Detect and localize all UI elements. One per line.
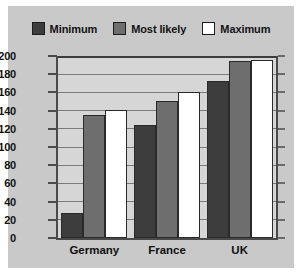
bar-france-minimum (134, 125, 156, 238)
y-axis-tick-label-200: 200 (0, 50, 16, 62)
x-axis-label-uk: UK (231, 244, 248, 256)
bar-france-most-likely (156, 101, 178, 238)
bar-germany-minimum (61, 213, 83, 238)
y-axis-tick-label-80: 80 (0, 159, 16, 171)
y-axis-tick-mark-160 (48, 91, 57, 93)
plot-area (56, 56, 278, 240)
bar-group-france (131, 56, 204, 238)
y-axis-tick-label-100: 100 (0, 141, 16, 153)
right-axis-tick-40 (278, 201, 285, 203)
legend-label-most-likely: Most likely (131, 23, 186, 35)
y-axis-tick-label-60: 60 (0, 177, 16, 189)
legend-label-maximum: Maximum (220, 23, 270, 35)
x-axis-label-france: France (148, 244, 186, 256)
bar-germany-most-likely (83, 115, 105, 238)
y-axis-tick-label-180: 180 (0, 68, 16, 80)
y-axis-tick-mark-40 (48, 201, 57, 203)
right-axis-tick-160 (278, 91, 285, 93)
y-axis-tick-label-120: 120 (0, 123, 16, 135)
right-axis-tick-0 (278, 237, 285, 239)
legend-item-minimum: Minimum (32, 22, 98, 35)
legend-label-minimum: Minimum (50, 23, 98, 35)
bar-germany-maximum (105, 110, 127, 238)
legend-swatch-minimum (32, 22, 45, 35)
plot-wrapper: 020406080100120140160180200 GermanyFranc… (18, 50, 284, 260)
y-axis-tick-label-40: 40 (0, 196, 16, 208)
right-axis-tick-120 (278, 128, 285, 130)
y-axis-tick-label-0: 0 (0, 232, 16, 244)
bar-france-maximum (178, 92, 200, 239)
y-axis-tick-mark-20 (48, 219, 57, 221)
right-axis-tick-60 (278, 182, 285, 184)
right-axis-tick-180 (278, 73, 285, 75)
bar-uk-most-likely (229, 61, 251, 238)
chart-legend: Minimum Most likely Maximum (8, 22, 294, 35)
y-axis-tick-mark-100 (48, 146, 57, 148)
right-axis-tick-100 (278, 146, 285, 148)
bar-uk-maximum (251, 60, 273, 238)
legend-item-maximum: Maximum (202, 22, 270, 35)
chart-figure: Minimum Most likely Maximum 020406080100… (8, 6, 294, 268)
x-axis-category-labels: GermanyFranceUK (58, 244, 276, 262)
x-axis-label-germany: Germany (69, 244, 119, 256)
y-axis-tick-mark-0 (48, 237, 57, 239)
y-axis-tick-mark-180 (48, 73, 57, 75)
legend-swatch-maximum (202, 22, 215, 35)
right-axis-tick-80 (278, 164, 285, 166)
bars-layer (58, 56, 276, 238)
legend-swatch-most-likely (113, 22, 126, 35)
legend-item-most-likely: Most likely (113, 22, 186, 35)
right-axis-tick-200 (278, 55, 285, 57)
y-axis-tick-mark-80 (48, 164, 57, 166)
y-axis-tick-mark-140 (48, 110, 57, 112)
bar-group-germany (58, 56, 131, 238)
bar-group-uk (203, 56, 276, 238)
right-axis-tick-140 (278, 110, 285, 112)
y-axis-tick-label-140: 140 (0, 105, 16, 117)
y-axis-tick-label-20: 20 (0, 214, 16, 226)
y-axis-tick-label-160: 160 (0, 86, 16, 98)
right-axis-tick-20 (278, 219, 285, 221)
y-axis-tick-mark-60 (48, 182, 57, 184)
bar-uk-minimum (207, 81, 229, 238)
y-axis-tick-mark-120 (48, 128, 57, 130)
y-axis-tick-mark-200 (48, 55, 57, 57)
